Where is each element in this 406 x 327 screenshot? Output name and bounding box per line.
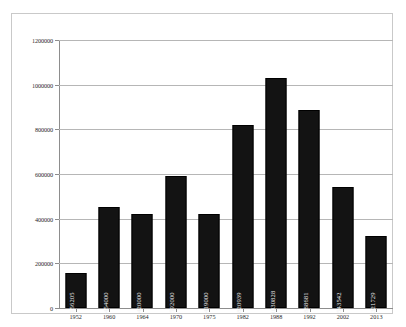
x-axis-tick-mark [209, 308, 210, 312]
bar-slot: 543542 [326, 40, 359, 308]
x-axis-tick-label: 1960 [103, 313, 115, 320]
bar-value-label: 1030828 [269, 291, 276, 315]
chart-figure: 020000040000060000080000010000001200000 … [0, 0, 406, 327]
bar[interactable]: 888681 [299, 110, 320, 308]
bar[interactable]: 592000 [165, 176, 186, 308]
x-axis-tick-label: 2013 [370, 313, 382, 320]
bar[interactable]: 419000 [199, 214, 220, 308]
x-axis-label-group: 1952196019641970197519821988199220022013 [59, 313, 393, 327]
bar-slot: 321729 [360, 40, 393, 308]
x-axis-tick-label: 1988 [270, 313, 282, 320]
x-axis-tick-label: 1970 [170, 313, 182, 320]
y-axis-tick-label: 800000 [12, 126, 53, 133]
x-axis-tick-mark [276, 308, 277, 312]
plot-area: 1562054540004200005920004190008209391030… [59, 40, 393, 308]
y-axis-tick-label: 400000 [12, 215, 53, 222]
x-axis-tick-mark [343, 308, 344, 312]
x-axis-tick-mark [243, 308, 244, 312]
x-axis-tick-mark [143, 308, 144, 312]
bar[interactable]: 820939 [232, 125, 253, 308]
x-axis-tick-mark [76, 308, 77, 312]
x-axis-tick-mark [176, 308, 177, 312]
bar-value-label: 156205 [69, 293, 76, 313]
bar-value-label: 592000 [169, 293, 176, 313]
y-axis-tick-label: 1200000 [12, 37, 53, 44]
bar-value-label: 454000 [102, 293, 109, 313]
x-axis-tick-mark [376, 308, 377, 312]
y-axis-tick-label: 600000 [12, 171, 53, 178]
bar-value-label: 420000 [136, 293, 143, 313]
bar-slot: 888681 [293, 40, 326, 308]
x-axis-tick-mark [109, 308, 110, 312]
bar-value-label: 543542 [336, 293, 343, 313]
bar-slot: 419000 [193, 40, 226, 308]
bar[interactable]: 156205 [65, 273, 86, 308]
bar-slot: 1030828 [259, 40, 292, 308]
bar-value-label: 820939 [236, 293, 243, 313]
y-axis-tick-label: 200000 [12, 260, 53, 267]
bar[interactable]: 420000 [132, 214, 153, 308]
y-axis-tick-group: 020000040000060000080000010000001200000 [12, 14, 59, 327]
bar[interactable]: 543542 [332, 187, 353, 308]
bar[interactable]: 454000 [99, 207, 120, 308]
y-axis-tick-label: 0 [12, 305, 53, 312]
bar-slot: 592000 [159, 40, 192, 308]
bar-value-label: 419000 [203, 293, 210, 313]
bar-group: 1562054540004200005920004190008209391030… [59, 40, 393, 308]
x-axis-tick-mark [310, 308, 311, 312]
x-axis-tick-label: 1975 [203, 313, 215, 320]
x-axis-tick-label: 1952 [70, 313, 82, 320]
x-axis-tick-label: 1964 [136, 313, 148, 320]
x-axis-tick-label: 1992 [303, 313, 315, 320]
bar-slot: 156205 [59, 40, 92, 308]
bar-slot: 420000 [126, 40, 159, 308]
chart-frame: 020000040000060000080000010000001200000 … [11, 13, 393, 314]
x-axis-tick-label: 2002 [337, 313, 349, 320]
bar-value-label: 321729 [370, 293, 377, 313]
bar[interactable]: 321729 [366, 236, 387, 308]
x-axis-tick-label: 1982 [237, 313, 249, 320]
bar-slot: 454000 [92, 40, 125, 308]
bar-slot: 820939 [226, 40, 259, 308]
bar-value-label: 888681 [303, 293, 310, 313]
bar[interactable]: 1030828 [266, 78, 287, 308]
y-axis-tick-label: 1000000 [12, 81, 53, 88]
